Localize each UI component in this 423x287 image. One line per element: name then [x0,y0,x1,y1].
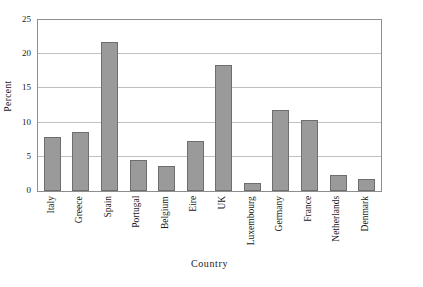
bar [330,175,347,191]
x-axis-tick-label: Italy [37,193,66,255]
x-axis-tick-label-text: Portugal [132,196,142,228]
y-axis-tick-label: 5 [27,151,32,160]
bar [72,132,89,191]
x-axis-tick-label: UK [209,193,238,255]
x-axis-tick-label-text: France [304,196,314,222]
bar [358,179,375,191]
bar [272,110,289,191]
bar [130,160,147,191]
bar [244,183,261,191]
x-axis-tick-label-text: Luxembourg [247,196,257,245]
y-axis-tick-label: 0 [27,186,32,195]
x-axis-tick-label: Portugal [123,193,152,255]
x-axis-tick-label-text: Italy [47,196,57,213]
x-axis-tick-label-text: Belgium [161,196,171,229]
x-axis-tick-label-text: UK [218,196,228,210]
bar [44,137,61,191]
x-axis-title: Country [37,258,382,269]
x-axis-tick-label-text: Greece [75,196,85,223]
y-axis-tick-label: 25 [22,15,31,24]
x-axis-tick-label: Eire [180,193,209,255]
bar [215,65,232,191]
x-axis-tick-label: Spain [94,193,123,255]
x-axis-tick-label-text: Eire [189,196,199,212]
y-axis-tick-label: 10 [22,117,31,126]
x-axis-tick-label: Luxembourg [237,193,266,255]
x-axis-tick-label: Greece [66,193,95,255]
y-axis-tick-label: 20 [22,49,31,58]
x-axis-tick-label-text: Spain [104,196,114,218]
bar-chart-figure: Percent 0510152025 ItalyGreeceSpainPortu… [0,0,423,287]
x-axis-tick-label: France [294,193,323,255]
bar [187,141,204,191]
x-axis-tick-label: Denmark [351,193,380,255]
x-axis-tick-label: Belgium [151,193,180,255]
x-axis-tick-label-text: Netherlands [332,196,342,242]
bar-series [38,20,381,191]
y-axis-tick-label: 15 [22,83,31,92]
x-axis-tick-label: Netherlands [323,193,352,255]
x-axis-tick-label: Germany [266,193,295,255]
bar [101,42,118,191]
x-axis-tick-label-text: Germany [275,196,285,231]
bar [301,120,318,191]
bar [158,166,175,191]
y-axis-tick-labels: 0510152025 [14,0,34,192]
x-axis-tick-labels: ItalyGreeceSpainPortugalBelgiumEireUKLux… [37,193,382,255]
x-axis-tick-label-text: Denmark [361,196,371,231]
plot-area [37,19,382,192]
y-axis-title-text: Percent [3,80,13,111]
